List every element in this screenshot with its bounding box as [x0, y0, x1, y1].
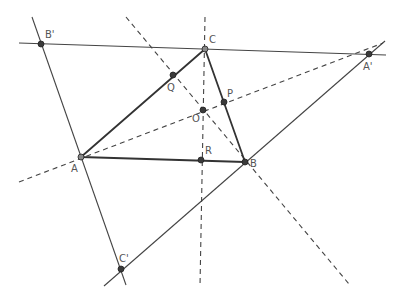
point-label-a: A [71, 163, 78, 174]
point-c1 [118, 266, 124, 272]
point-b [242, 159, 248, 165]
line-b-prime-c-prime [32, 17, 126, 285]
dashed-bisector-ac [126, 17, 349, 284]
point-label-b: B [250, 158, 257, 169]
point-label-q: Q [167, 82, 175, 93]
point-p [221, 99, 227, 105]
point-q [170, 72, 176, 78]
point-b1 [38, 41, 44, 47]
point-label-p: P [227, 88, 233, 99]
geometry-diagram: B'CA'QPOARBC' [0, 0, 396, 302]
point-label-a1: A' [363, 61, 373, 72]
triangle-abc [81, 49, 245, 162]
point-label-r: R [205, 145, 212, 156]
point-label-c: C [209, 34, 216, 45]
point-o [200, 107, 206, 113]
point-c [202, 46, 208, 52]
point-r [198, 157, 204, 163]
point-a [78, 154, 84, 160]
point-label-b1: B' [45, 29, 55, 40]
point-label-o: O [192, 113, 200, 124]
point-a1 [366, 51, 372, 57]
point-label-c1: C' [119, 253, 129, 264]
